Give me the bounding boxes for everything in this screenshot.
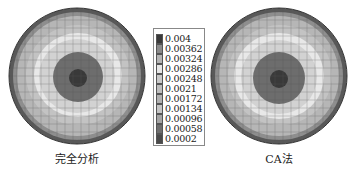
caption-full-analysis: 完全分析 <box>27 150 127 166</box>
contour-circle-right <box>206 0 352 150</box>
contour-plot-full-analysis <box>4 0 150 150</box>
caption-ca-method: CA法 <box>229 150 329 166</box>
legend-swatch <box>156 114 163 124</box>
contour-plot-ca-method <box>206 0 352 150</box>
legend-swatch <box>156 64 163 74</box>
legend-swatch <box>156 124 163 134</box>
legend-swatch <box>156 134 163 144</box>
legend-swatch <box>156 54 163 64</box>
legend-swatch <box>156 44 163 54</box>
contour-circle-left <box>4 0 150 150</box>
legend-swatch <box>156 94 163 104</box>
color-legend: 0.004 0.00362 0.00324 0.00286 0.00248 0.… <box>153 28 205 146</box>
legend-swatch <box>156 104 163 114</box>
legend-swatch <box>156 34 163 44</box>
legend-entry: 0.0002 <box>156 134 196 144</box>
legend-swatch <box>156 84 163 94</box>
legend-swatch <box>156 74 163 84</box>
